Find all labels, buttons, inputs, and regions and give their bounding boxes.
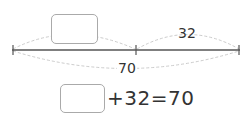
known-part-label: 32 (178, 26, 196, 40)
equation-blank-box[interactable] (60, 84, 105, 113)
unknown-part-box[interactable] (51, 14, 98, 44)
total-label: 70 (117, 61, 137, 75)
equation-text: +32=70 (107, 88, 194, 108)
